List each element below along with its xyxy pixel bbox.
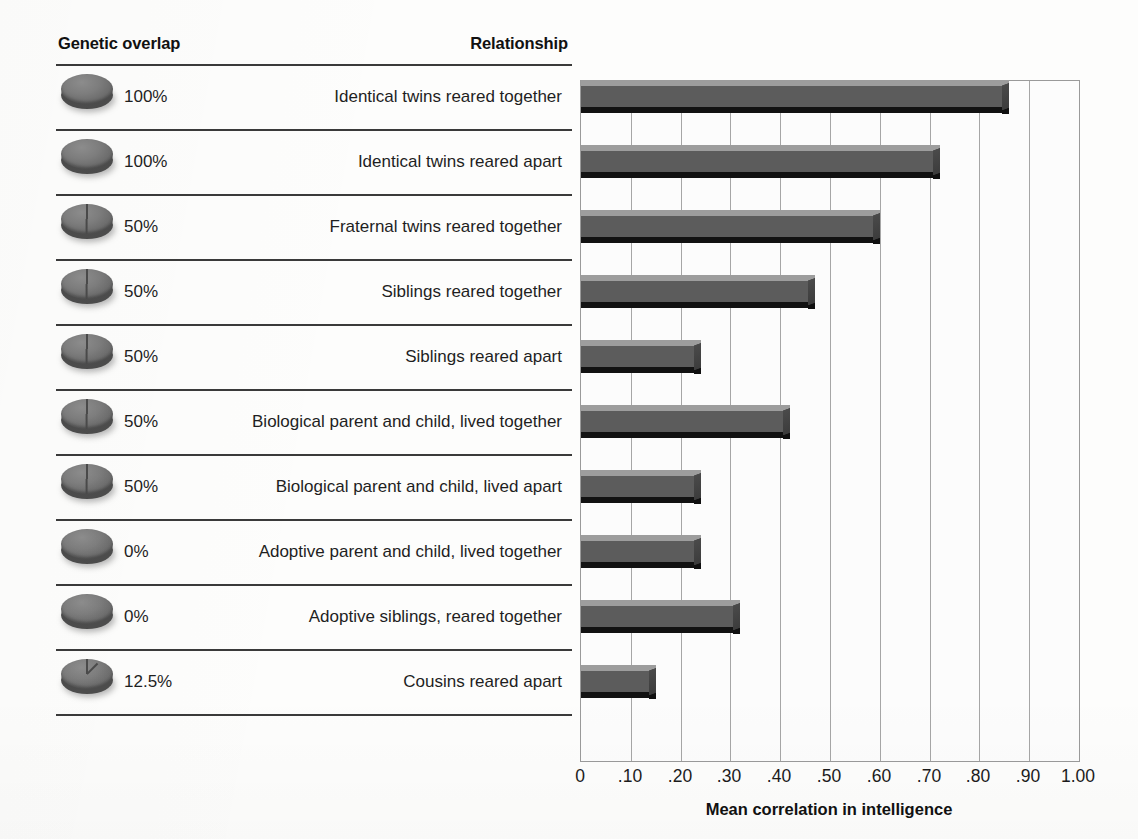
x-tick-label: .40 [767, 766, 791, 787]
genetic-overlap-disc-icon [60, 332, 116, 380]
genetic-overlap-disc-icon [60, 267, 116, 315]
x-tick-label: .60 [867, 766, 891, 787]
relationship-label: Biological parent and child, lived toget… [252, 412, 562, 432]
gridline [930, 81, 931, 761]
genetic-overlap-value: 100% [124, 152, 167, 172]
bar [581, 145, 940, 179]
bar [581, 340, 701, 374]
genetic-overlap-value: 50% [124, 477, 158, 497]
relationship-label: Siblings reared together [381, 282, 562, 302]
genetic-overlap-disc-icon [60, 657, 116, 705]
heritability-bar-chart-figure: Genetic overlap Relationship 100%Identic… [0, 0, 1138, 839]
table-row: 100%Identical twins reared apart [56, 129, 572, 194]
disc-wedge-divider [61, 659, 113, 689]
bar [581, 405, 790, 439]
genetic-overlap-value: 50% [124, 217, 158, 237]
x-tick-label: .80 [966, 766, 990, 787]
x-tick-label: .10 [618, 766, 642, 787]
relationship-label: Adoptive parent and child, lived togethe… [259, 542, 562, 562]
table-row: 50%Fraternal twins reared together [56, 194, 572, 259]
bar [581, 470, 701, 504]
disc-wedge-divider [61, 269, 113, 299]
x-tick-label: .50 [817, 766, 841, 787]
relationship-label: Biological parent and child, lived apart [276, 477, 562, 497]
genetic-overlap-value: 0% [124, 542, 149, 562]
bar [581, 210, 880, 244]
relationship-table: Genetic overlap Relationship 100%Identic… [56, 34, 572, 744]
genetic-overlap-disc-icon [60, 72, 116, 120]
table-row: 12.5%Cousins reared apart [56, 649, 572, 714]
genetic-overlap-disc-icon [60, 202, 116, 250]
column-header-genetic-overlap: Genetic overlap [58, 34, 180, 53]
bar [581, 600, 740, 634]
relationship-label: Fraternal twins reared together [330, 217, 562, 237]
disc-wedge-divider [61, 464, 113, 494]
table-row: 0%Adoptive siblings, reared together [56, 584, 572, 649]
table-separator [56, 714, 572, 716]
table-row: 50%Siblings reared together [56, 259, 572, 324]
genetic-overlap-value: 50% [124, 282, 158, 302]
x-tick-label: .30 [717, 766, 741, 787]
genetic-overlap-disc-icon [60, 462, 116, 510]
genetic-overlap-value: 50% [124, 347, 158, 367]
disc-wedge-divider [61, 334, 113, 364]
column-header-relationship: Relationship [470, 34, 568, 53]
genetic-overlap-disc-icon [60, 527, 116, 575]
relationship-label: Adoptive siblings, reared together [309, 607, 562, 627]
genetic-overlap-disc-icon [60, 397, 116, 445]
table-row: 50%Biological parent and child, lived to… [56, 389, 572, 454]
genetic-overlap-disc-icon [60, 137, 116, 185]
table-row: 100%Identical twins reared together [56, 64, 572, 129]
x-tick-label: 0 [575, 766, 585, 787]
genetic-overlap-disc-icon [60, 592, 116, 640]
genetic-overlap-value: 50% [124, 412, 158, 432]
disc-wedge-divider [61, 204, 113, 234]
x-axis-tick-labels: 0.10.20.30.40.50.60.70.80.901.00 [580, 766, 1078, 790]
table-row: 50%Biological parent and child, lived ap… [56, 454, 572, 519]
bar [581, 275, 815, 309]
x-tick-label: .20 [668, 766, 692, 787]
plot-area [580, 80, 1080, 762]
bar [581, 665, 656, 699]
x-axis-title: Mean correlation in intelligence [580, 800, 1078, 819]
genetic-overlap-value: 0% [124, 607, 149, 627]
relationship-label: Cousins reared apart [403, 672, 562, 692]
bar [581, 535, 701, 569]
genetic-overlap-value: 100% [124, 87, 167, 107]
x-tick-label: .90 [1016, 766, 1040, 787]
relationship-label: Identical twins reared apart [358, 152, 562, 172]
table-row: 50%Siblings reared apart [56, 324, 572, 389]
table-row: 0%Adoptive parent and child, lived toget… [56, 519, 572, 584]
disc-wedge-divider [61, 399, 113, 429]
gridline [1029, 81, 1030, 761]
gridline [880, 81, 881, 761]
genetic-overlap-value: 12.5% [124, 672, 172, 692]
gridline [830, 81, 831, 761]
x-tick-label: 1.00 [1061, 766, 1095, 787]
gridline [979, 81, 980, 761]
bar [581, 80, 1009, 114]
relationship-label: Siblings reared apart [405, 347, 562, 367]
relationship-label: Identical twins reared together [334, 87, 562, 107]
x-tick-label: .70 [917, 766, 941, 787]
